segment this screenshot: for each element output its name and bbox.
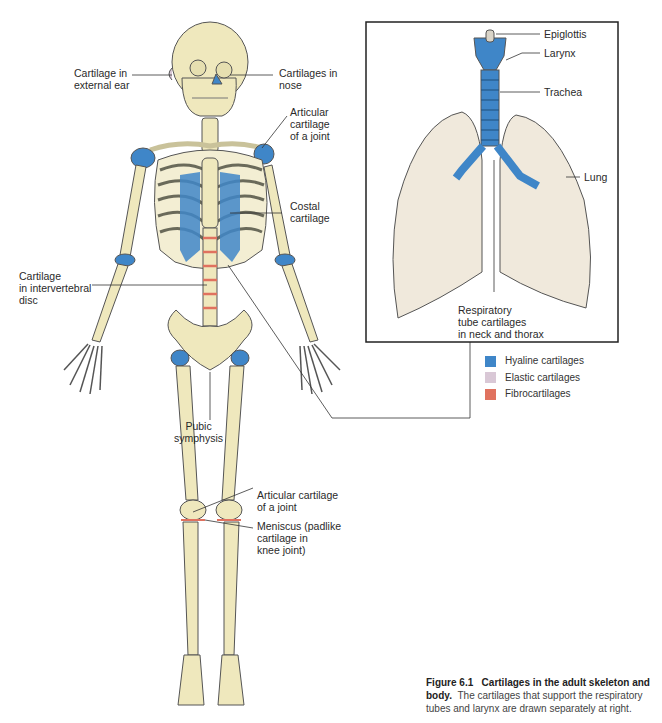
label-pubic-symphysis: Pubic symphysis	[174, 420, 223, 444]
label-knee-articular: Articular cartilage of a joint	[257, 489, 338, 513]
hyaline-swatch-icon	[485, 356, 496, 367]
label-costal-cartilage: Costal cartilage	[290, 200, 330, 224]
label-external-ear: Cartilage in external ear	[74, 67, 129, 91]
label-shoulder-articular: Articular cartilage of a joint	[290, 106, 330, 142]
label-nose: Cartilages in nose	[279, 67, 337, 91]
figure-number: Figure 6.1	[426, 677, 473, 688]
label-meniscus: Meniscus (padlike cartilage in knee join…	[257, 520, 341, 556]
fibro-swatch-icon	[485, 389, 496, 400]
label-respiratory-tube: Respiratory tube cartilages in neck and …	[458, 304, 544, 340]
label-larynx: Larynx	[544, 47, 576, 59]
label-lung: Lung	[584, 171, 607, 183]
legend: Hyaline cartilages Elastic cartilages Fi…	[485, 353, 584, 403]
legend-label: Fibrocartilages	[505, 386, 571, 403]
legend-item-hyaline: Hyaline cartilages	[485, 353, 584, 370]
caption-body: The cartilages that support the respirat…	[426, 690, 643, 714]
label-trachea: Trachea	[544, 86, 582, 98]
legend-item-elastic: Elastic cartilages	[485, 370, 584, 387]
legend-label: Hyaline cartilages	[505, 353, 584, 370]
elastic-swatch-icon	[485, 372, 496, 383]
label-epiglottis: Epiglottis	[544, 28, 587, 40]
legend-item-fibro: Fibrocartilages	[485, 386, 584, 403]
figure-caption: Figure 6.1 Cartilages in the adult skele…	[426, 676, 658, 715]
label-intervertebral-disc: Cartilage in intervertebral disc	[19, 270, 91, 306]
legend-label: Elastic cartilages	[505, 370, 580, 387]
